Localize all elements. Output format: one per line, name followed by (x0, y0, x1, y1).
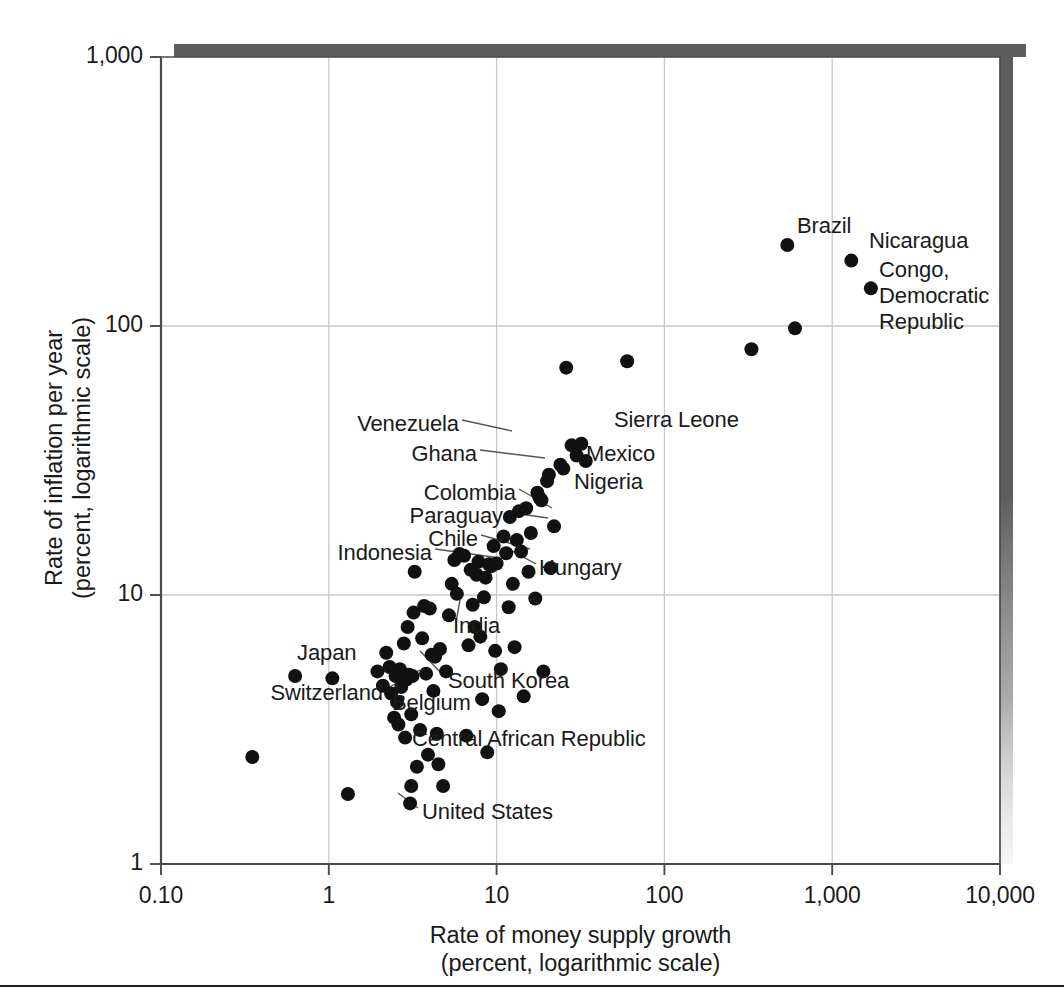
annotation-line: Democratic (879, 283, 989, 308)
data-point (744, 342, 758, 356)
data-point (431, 757, 445, 771)
data-point (780, 238, 794, 252)
annotation-line: Brazil (797, 213, 851, 238)
data-point (514, 545, 528, 559)
annotation-line: United States (422, 799, 553, 824)
data-point (534, 493, 548, 507)
annotation-line: Nigeria (574, 469, 643, 494)
point-annotation-label: Sierra Leone (614, 407, 739, 433)
annotation-line: Congo, (879, 257, 949, 282)
scatter-plot-svg (0, 0, 1064, 1005)
point-annotation-label: Brazil (797, 213, 851, 239)
data-point (415, 631, 429, 645)
data-point (408, 565, 422, 579)
data-point (519, 501, 533, 515)
point-annotation-label: Switzerland (270, 680, 383, 706)
annotation-line: Central African Republic (412, 726, 646, 751)
data-point (522, 565, 536, 579)
data-point (379, 646, 393, 660)
point-annotation-label: Central African Republic (412, 726, 646, 752)
data-point (405, 669, 419, 683)
data-point (488, 644, 502, 658)
data-point (559, 361, 573, 375)
point-annotation-label: Indonesia (337, 540, 432, 566)
data-point (403, 796, 417, 810)
annotation-line: Belgium (392, 690, 471, 715)
annotation-line: India (453, 613, 500, 638)
annotation-line: Paraguay (410, 503, 503, 528)
data-point (450, 587, 464, 601)
y-tick-label: 100 (105, 311, 143, 338)
data-point (528, 592, 542, 606)
x-axis-title-line1: Rate of money supply growth (430, 922, 732, 948)
point-annotation-label: Hungary (539, 555, 621, 581)
y-tick-label: 1 (130, 849, 143, 876)
data-point (477, 590, 491, 604)
data-point (490, 556, 504, 570)
data-point (620, 354, 634, 368)
y-axis-title-line1: Rate of inflation per year (41, 329, 67, 585)
data-point (401, 620, 415, 634)
annotation-line: Switzerland (270, 680, 383, 705)
annotation-line: Nicaragua (869, 228, 968, 253)
annotation-line: Chile (428, 526, 478, 551)
point-annotation-label: Chile (428, 526, 478, 552)
point-annotation-label: Congo,DemocraticRepublic (879, 257, 989, 335)
point-annotation-label: United States (422, 799, 553, 825)
data-point (506, 577, 520, 591)
data-point (556, 462, 570, 476)
data-point (502, 600, 516, 614)
bottom-divider-rule (0, 985, 1064, 987)
point-annotation-label: Ghana (411, 441, 477, 467)
y-axis-title-line2: (percent, logarithmic scale) (69, 316, 95, 598)
y-tick-label: 10 (118, 580, 143, 607)
data-point (864, 281, 878, 295)
data-point (433, 642, 447, 656)
point-annotation-label: Belgium (392, 690, 471, 716)
x-axis-title: Rate of money supply growth(percent, log… (161, 922, 1000, 978)
data-point (370, 664, 384, 678)
point-annotation-label: Mexico (586, 441, 655, 467)
data-point (508, 640, 522, 654)
figure-container: 1101001,000 0.101101001,00010,000 Brazil… (0, 0, 1064, 1005)
data-point (497, 530, 511, 544)
annotation-line: Indonesia (337, 540, 432, 565)
annotation-line: Mexico (586, 441, 655, 466)
point-annotation-label: India (453, 613, 500, 639)
data-point (492, 704, 506, 718)
data-point (788, 321, 802, 335)
data-point (499, 546, 513, 560)
x-tick-label: 10,000 (900, 882, 1064, 909)
data-point (844, 254, 858, 268)
annotation-line: Ghana (411, 441, 477, 466)
y-tick-label: 1,000 (86, 42, 143, 69)
data-point (423, 602, 437, 616)
data-point (524, 526, 538, 540)
point-annotation-label: Nigeria (574, 469, 643, 495)
data-point (547, 519, 561, 533)
annotation-line: Republic (879, 309, 964, 334)
x-axis-title-line2: (percent, logarithmic scale) (441, 950, 720, 976)
point-annotation-label: Venezuela (357, 411, 459, 437)
data-point (419, 667, 433, 681)
data-point (398, 731, 412, 745)
data-point (436, 779, 450, 793)
annotation-line: Venezuela (357, 411, 459, 436)
data-point (404, 779, 418, 793)
data-point (461, 638, 475, 652)
data-point (542, 468, 556, 482)
data-point (475, 692, 489, 706)
y-axis-title: Rate of inflation per year(percent, loga… (41, 247, 97, 667)
data-point (341, 787, 355, 801)
point-annotation-label: Japan (297, 640, 356, 666)
point-annotation-label: Nicaragua (869, 228, 968, 254)
data-point (245, 750, 259, 764)
annotation-line: Sierra Leone (614, 407, 739, 432)
annotation-line: Hungary (539, 555, 621, 580)
annotation-line: Japan (297, 640, 356, 665)
data-point (410, 760, 424, 774)
data-point (397, 637, 411, 651)
annotation-line: Colombia (424, 480, 516, 505)
data-point (391, 718, 405, 732)
